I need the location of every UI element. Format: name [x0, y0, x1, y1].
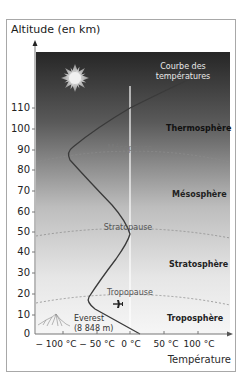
everest-label-line2: (8 848 m) [74, 324, 113, 334]
stratopause-label: Stratopause [104, 223, 153, 232]
y-tick-90: 90 [8, 145, 30, 155]
x-tick-0: 0 °C [121, 339, 140, 349]
y-tick-80: 80 [8, 165, 30, 175]
layer-thermosphere: Thermosphère [166, 124, 231, 133]
y-tick-70: 70 [8, 186, 30, 196]
tropopause-label: Tropopause [107, 288, 153, 297]
x-tick-minus-50: − 50 °C [79, 339, 115, 349]
y-tick-10: 10 [8, 310, 30, 320]
y-tick-30: 30 [8, 268, 30, 278]
y-tick-50: 50 [8, 227, 30, 237]
curve-label-line2: températures [150, 72, 216, 82]
mesopause-label: Mésopause [107, 144, 152, 153]
x-tick-50: 50 °C [153, 339, 178, 349]
y-tick-60: 60 [8, 207, 30, 217]
curve-label-line1: Courbe des [150, 62, 216, 72]
x-tick-100: 100 °C [184, 339, 215, 349]
x-axis-label: Température [168, 354, 231, 365]
layer-troposphere: Troposphère [167, 314, 223, 323]
everest-label-line1: Everest [74, 314, 113, 324]
x-tick-minus-100: − 100 °C [35, 339, 76, 349]
y-axis-arrow-icon [33, 40, 38, 46]
y-tick-20: 20 [8, 289, 30, 299]
y-tick-110: 110 [8, 103, 30, 113]
layer-stratosphere: Stratosphère [169, 260, 228, 269]
y-tick-40: 40 [8, 247, 30, 257]
layer-mesosphere: Mésosphère [172, 190, 227, 199]
y-tick-100: 100 [8, 124, 30, 134]
everest-label: Everest (8 848 m) [74, 314, 113, 334]
curve-label: Courbe des températures [150, 62, 216, 82]
y-tick-0: 0 [8, 329, 30, 339]
